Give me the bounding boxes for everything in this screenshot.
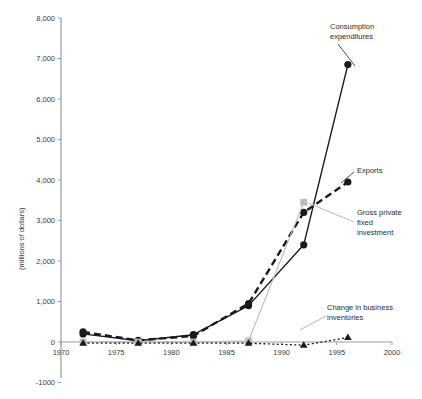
data-point-marker xyxy=(245,300,252,307)
x-tick-label: 1975 xyxy=(108,348,125,357)
x-tick-label: 1995 xyxy=(328,348,345,357)
y-tick-label: 3,000 xyxy=(36,216,55,225)
data-point-marker xyxy=(190,332,197,339)
annotation-leader-lines xyxy=(300,44,355,330)
y-tick-label: -1000 xyxy=(36,378,55,387)
x-tick-label: 1980 xyxy=(163,348,180,357)
annotation-consumption-expenditures: Consumption expenditures xyxy=(330,22,374,42)
annotation-change-in-business-inventories: Change in business inventories xyxy=(327,303,393,323)
series-line xyxy=(83,202,304,342)
leader-inventories xyxy=(300,316,326,330)
y-tick-label: 8,000 xyxy=(36,14,55,23)
x-tick-label: 1990 xyxy=(273,348,290,357)
chart-container: 8,0007,0006,0005,0004,0003,0002,0001,000… xyxy=(0,0,422,399)
y-tick-label: 0 xyxy=(51,338,55,347)
series-consumption-expenditures xyxy=(79,61,351,344)
chart-plot-area: 8,0007,0006,0005,0004,0003,0002,0001,000… xyxy=(0,0,422,399)
data-point-marker xyxy=(344,61,351,68)
y-tick-label: 7,000 xyxy=(36,54,55,63)
y-tick-label: 4,000 xyxy=(36,176,55,185)
data-point-marker xyxy=(79,328,86,335)
series-gross-private-fixed-investment xyxy=(80,199,307,346)
series-line xyxy=(83,182,348,340)
annotation-exports: Exports xyxy=(357,166,382,176)
series-change-in-business-inventories xyxy=(79,334,351,348)
y-tick-label: 2,000 xyxy=(36,257,55,266)
y-axis-title: (millions of dollars) xyxy=(17,207,26,270)
leader-gpfi xyxy=(308,203,354,222)
data-point-marker xyxy=(300,241,307,248)
annotation-gross-private-fixed-investment: Gross private fixed investment xyxy=(357,208,402,238)
series-exports xyxy=(79,178,351,344)
x-tick-label: 1970 xyxy=(53,348,70,357)
y-tick-label: 1,000 xyxy=(36,297,55,306)
data-point-marker xyxy=(344,334,352,341)
x-tick-label: 1985 xyxy=(218,348,235,357)
y-tick-label: 5,000 xyxy=(36,135,55,144)
y-tick-label: 6,000 xyxy=(36,95,55,104)
x-axis-ticks: 1970197519801985199019952000 xyxy=(53,342,401,357)
x-tick-label: 2000 xyxy=(384,348,401,357)
data-point-marker xyxy=(300,199,307,206)
y-axis-ticks: 8,0007,0006,0005,0004,0003,0002,0001,000… xyxy=(36,14,61,388)
